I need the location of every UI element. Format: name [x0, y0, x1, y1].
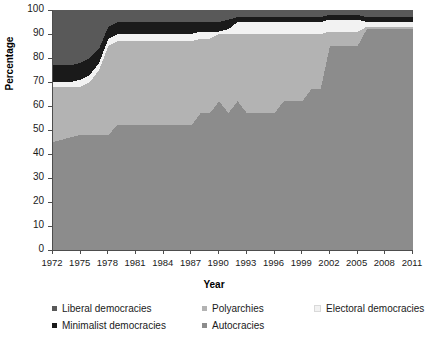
y-tick-label: 40 [18, 147, 44, 158]
x-tick-mark [163, 250, 164, 254]
legend-swatch-autocracies [202, 323, 207, 328]
y-tick-label: 30 [18, 171, 44, 182]
plot-area [52, 10, 413, 251]
legend-label-polyarchies: Polyarchies [212, 303, 264, 314]
x-tick-mark [384, 250, 385, 254]
x-tick-mark [190, 250, 191, 254]
x-tick-mark [301, 250, 302, 254]
legend-label-autocracies: Autocracies [212, 320, 264, 331]
y-tick-label: 10 [18, 219, 44, 230]
y-tick-label: 70 [18, 75, 44, 86]
legend-item-polyarchies[interactable]: Polyarchies [202, 303, 314, 314]
legend-swatch-polyarchies [202, 306, 207, 311]
legend-swatch-liberal-democracies [52, 306, 57, 311]
x-tick-mark [107, 250, 108, 254]
y-tick-label: 0 [18, 243, 44, 254]
x-tick-mark [135, 250, 136, 254]
chart-legend: Liberal democracies Polyarchies Electora… [52, 303, 428, 337]
legend-row-2: Minimalist democracies Autocracies [52, 320, 428, 337]
x-tick-mark [274, 250, 275, 254]
y-tick-label: 100 [18, 3, 44, 14]
stacked-area-chart: Percentage 0102030405060708090100 197219… [0, 0, 428, 354]
y-axis-title: Percentage [4, 77, 15, 91]
x-tick-mark [357, 250, 358, 254]
y-tick-label: 60 [18, 99, 44, 110]
legend-swatch-minimalist-democracies [52, 323, 57, 328]
x-axis-title: Year [0, 279, 428, 290]
area-series-group [53, 10, 413, 250]
legend-label-liberal-democracies: Liberal democracies [62, 303, 152, 314]
x-tick-mark [52, 250, 53, 254]
legend-label-minimalist-democracies: Minimalist democracies [62, 320, 166, 331]
x-tick-mark [246, 250, 247, 254]
x-tick-mark [329, 250, 330, 254]
legend-swatch-electoral-democracies [314, 305, 321, 312]
legend-item-electoral-democracies[interactable]: Electoral democracies [314, 303, 424, 314]
legend-item-minimalist-democracies[interactable]: Minimalist democracies [52, 320, 202, 331]
y-tick-label: 50 [18, 123, 44, 134]
legend-label-electoral-democracies: Electoral democracies [326, 303, 424, 314]
legend-item-liberal-democracies[interactable]: Liberal democracies [52, 303, 202, 314]
legend-row-1: Liberal democracies Polyarchies Electora… [52, 303, 428, 320]
legend-item-autocracies[interactable]: Autocracies [202, 320, 264, 331]
y-tick-label: 20 [18, 195, 44, 206]
y-tick-label: 90 [18, 27, 44, 38]
x-tick-mark [218, 250, 219, 254]
x-tick-label: 2011 [395, 257, 428, 268]
x-tick-mark [412, 250, 413, 254]
y-tick-label: 80 [18, 51, 44, 62]
x-tick-mark [80, 250, 81, 254]
